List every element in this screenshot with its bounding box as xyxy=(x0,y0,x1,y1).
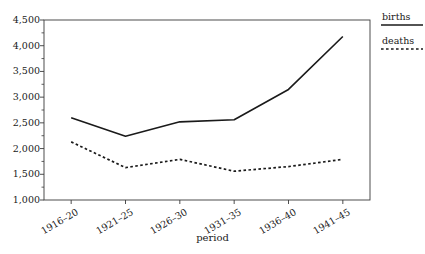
legend-item-deaths: deaths xyxy=(382,36,414,46)
y-axis-tick-label: 2,000 xyxy=(0,144,40,154)
y-axis-tick-label: 1,500 xyxy=(0,169,40,179)
y-axis-tick-label: 3,000 xyxy=(0,92,40,102)
y-axis-tick-label: 1,000 xyxy=(0,195,40,205)
x-axis-ticks xyxy=(71,200,343,204)
line-chart-figure: 1,0001,5002,0002,5003,0003,5004,0004,500… xyxy=(0,0,425,254)
y-axis-tick-label: 3,500 xyxy=(0,66,40,76)
y-axis-tick-label: 4,000 xyxy=(0,41,40,51)
x-axis-title: period xyxy=(0,233,425,243)
y-axis-ticks xyxy=(40,20,44,200)
plot-frame xyxy=(44,20,370,200)
y-axis-tick-label: 2,500 xyxy=(0,118,40,128)
data-series-group xyxy=(71,36,343,171)
legend-item-births: births xyxy=(382,12,410,22)
series-line-births xyxy=(71,36,343,136)
series-line-deaths xyxy=(71,142,343,171)
y-axis-tick-label: 4,500 xyxy=(0,15,40,25)
